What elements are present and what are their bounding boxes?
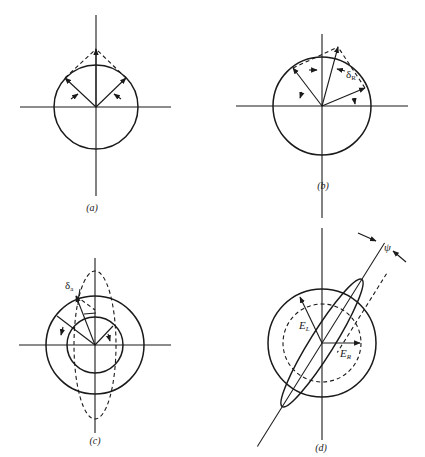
right-vector xyxy=(96,78,126,107)
rotation-arrow-right xyxy=(354,98,355,104)
delta-marker-right xyxy=(337,69,345,71)
panel-a: (a) xyxy=(20,15,171,214)
panel-label-b: (b) xyxy=(317,180,329,192)
left-vector xyxy=(65,78,96,107)
rotation-arrow-left xyxy=(61,327,63,335)
e-r-label: ER xyxy=(339,347,352,361)
major-axis xyxy=(257,243,384,447)
right-vector xyxy=(95,326,113,345)
panel-label-a: (a) xyxy=(86,202,98,214)
angle-bracket xyxy=(84,313,96,314)
psi-arrow-right xyxy=(393,251,406,262)
panel-label-d: (d) xyxy=(315,442,327,454)
panel-b: δR (b) xyxy=(236,34,408,218)
rotation-arrow-left xyxy=(300,92,302,98)
psi-arrow-left xyxy=(358,233,376,241)
delta-a-label: δa xyxy=(65,279,74,293)
rotation-arrow-right xyxy=(108,334,110,341)
panel-c: δa (c) xyxy=(19,258,171,447)
right-vector xyxy=(322,88,365,106)
reference-axis xyxy=(337,274,386,353)
resultant-vector xyxy=(322,47,338,106)
e-l-label: EL xyxy=(298,319,310,333)
rotation-arrow-left xyxy=(71,94,78,99)
polarization-figure: (a) δR (b) δa (c) xyxy=(0,0,425,457)
panel-d: ψ EL ER (d) xyxy=(247,228,406,456)
psi-label: ψ xyxy=(384,241,391,253)
left-vector xyxy=(293,68,322,106)
panel-label-c: (c) xyxy=(89,435,101,447)
rotation-arrow-right xyxy=(114,94,121,99)
